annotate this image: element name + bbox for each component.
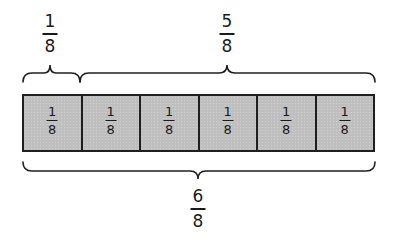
cell-fraction: 1 8 xyxy=(339,105,350,136)
denominator: 8 xyxy=(282,121,290,136)
denominator: 8 xyxy=(48,121,56,136)
numerator: 1 xyxy=(107,105,115,120)
strip-cell: 1 8 xyxy=(83,96,142,150)
cell-fraction: 1 8 xyxy=(164,105,175,136)
denominator: 8 xyxy=(193,210,204,230)
strip-cell: 1 8 xyxy=(317,96,374,150)
numerator: 1 xyxy=(341,105,349,120)
denominator: 8 xyxy=(165,121,173,136)
bottom-brace-six-eighths xyxy=(23,162,375,179)
denominator: 8 xyxy=(341,121,349,136)
strip-cell: 1 8 xyxy=(258,96,317,150)
strip-cell: 1 8 xyxy=(24,96,83,150)
numerator: 6 xyxy=(193,188,204,208)
denominator: 8 xyxy=(107,121,115,136)
top-brace-five-eighths xyxy=(80,65,375,82)
strip-cell: 1 8 xyxy=(141,96,200,150)
numerator: 1 xyxy=(48,105,56,120)
numerator: 1 xyxy=(165,105,173,120)
numerator: 1 xyxy=(282,105,290,120)
cell-fraction: 1 8 xyxy=(222,105,233,136)
cell-fraction: 1 8 xyxy=(105,105,116,136)
cell-fraction: 1 8 xyxy=(47,105,58,136)
numerator: 1 xyxy=(224,105,232,120)
top-brace-one-eighth xyxy=(23,65,80,82)
strip-cell: 1 8 xyxy=(200,96,259,150)
fraction-strip: 1 8 1 8 1 8 1 8 1 8 1 xyxy=(22,94,375,152)
denominator: 8 xyxy=(224,121,232,136)
cell-fraction: 1 8 xyxy=(281,105,292,136)
bottom-fraction-six-eighths: 6 8 xyxy=(191,188,206,230)
